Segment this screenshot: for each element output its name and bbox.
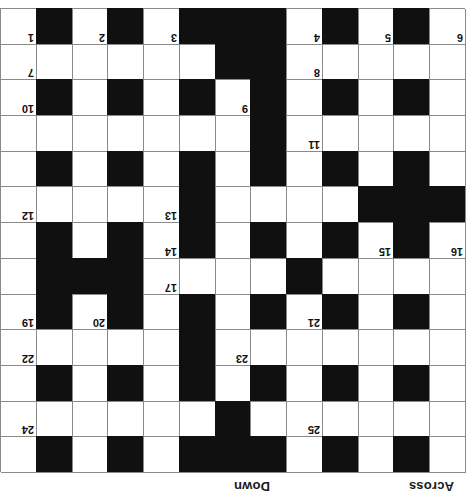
grid-cell[interactable] xyxy=(107,115,143,151)
grid-cell[interactable] xyxy=(429,79,465,115)
grid-cell[interactable] xyxy=(36,186,72,222)
grid-cell[interactable]: 3 xyxy=(143,8,179,44)
grid-cell[interactable]: 14 xyxy=(143,222,179,258)
grid-cell[interactable] xyxy=(250,258,286,294)
grid-cell[interactable] xyxy=(179,401,215,436)
grid-cell[interactable] xyxy=(72,79,107,115)
grid-cell[interactable] xyxy=(143,329,179,365)
grid-cell[interactable] xyxy=(143,365,179,401)
grid-cell[interactable] xyxy=(322,258,358,294)
grid-cell[interactable] xyxy=(429,115,465,151)
grid-cell[interactable] xyxy=(322,401,358,436)
grid-cell[interactable] xyxy=(429,329,465,365)
grid-cell[interactable] xyxy=(143,79,179,115)
grid-cell[interactable] xyxy=(322,329,358,365)
grid-cell[interactable] xyxy=(429,365,465,401)
grid-cell[interactable] xyxy=(179,44,215,79)
grid-cell[interactable]: 22 xyxy=(0,329,36,365)
grid-cell[interactable] xyxy=(286,365,322,401)
grid-cell[interactable] xyxy=(215,294,250,329)
grid-cell[interactable] xyxy=(36,44,72,79)
grid-cell[interactable]: 11 xyxy=(286,115,322,151)
grid-cell[interactable]: 12 xyxy=(0,186,36,222)
grid-cell[interactable]: 8 xyxy=(286,44,322,79)
grid-cell[interactable]: 17 xyxy=(143,258,179,294)
grid-cell[interactable]: 15 xyxy=(358,222,393,258)
grid-cell[interactable]: 13 xyxy=(143,186,179,222)
grid-cell[interactable]: 23 xyxy=(215,329,250,365)
grid-cell[interactable] xyxy=(0,222,36,258)
grid-cell[interactable] xyxy=(215,222,250,258)
grid-cell[interactable] xyxy=(72,222,107,258)
grid-cell[interactable] xyxy=(286,329,322,365)
grid-cell[interactable] xyxy=(0,151,36,186)
grid-cell[interactable] xyxy=(0,436,36,472)
grid-cell[interactable] xyxy=(429,151,465,186)
grid-cell[interactable] xyxy=(179,115,215,151)
grid-cell[interactable] xyxy=(393,258,429,294)
grid-cell[interactable] xyxy=(143,436,179,472)
grid-cell[interactable]: 6 xyxy=(429,8,465,44)
grid-cell[interactable] xyxy=(143,151,179,186)
grid-cell[interactable] xyxy=(143,44,179,79)
grid-cell[interactable] xyxy=(72,115,107,151)
grid-cell[interactable] xyxy=(358,258,393,294)
grid-cell[interactable] xyxy=(358,401,393,436)
grid-cell[interactable] xyxy=(143,115,179,151)
grid-cell[interactable] xyxy=(72,365,107,401)
grid-cell[interactable] xyxy=(393,401,429,436)
grid-cell[interactable] xyxy=(36,329,72,365)
grid-cell[interactable] xyxy=(72,151,107,186)
grid-cell[interactable] xyxy=(322,115,358,151)
grid-cell[interactable] xyxy=(0,115,36,151)
grid-cell[interactable] xyxy=(0,258,36,294)
grid-cell[interactable] xyxy=(429,44,465,79)
grid-cell[interactable] xyxy=(143,401,179,436)
grid-cell[interactable] xyxy=(429,258,465,294)
grid-cell[interactable] xyxy=(358,115,393,151)
grid-cell[interactable] xyxy=(72,186,107,222)
grid-cell[interactable] xyxy=(250,329,286,365)
crossword-grid[interactable]: 252423222120191716151413121191087654321 xyxy=(1,9,466,473)
grid-cell[interactable]: 9 xyxy=(215,79,250,115)
grid-cell[interactable]: 5 xyxy=(358,8,393,44)
grid-cell[interactable]: 7 xyxy=(0,44,36,79)
grid-cell[interactable] xyxy=(358,294,393,329)
grid-cell[interactable] xyxy=(393,329,429,365)
grid-cell[interactable] xyxy=(322,44,358,79)
grid-cell[interactable] xyxy=(429,294,465,329)
grid-cell[interactable] xyxy=(107,329,143,365)
grid-cell[interactable] xyxy=(286,436,322,472)
grid-cell[interactable]: 10 xyxy=(0,79,36,115)
grid-cell[interactable] xyxy=(358,436,393,472)
grid-cell[interactable] xyxy=(215,115,250,151)
grid-cell[interactable] xyxy=(107,401,143,436)
grid-cell[interactable] xyxy=(393,44,429,79)
grid-cell[interactable] xyxy=(286,222,322,258)
grid-cell[interactable] xyxy=(429,436,465,472)
grid-cell[interactable] xyxy=(286,151,322,186)
grid-cell[interactable] xyxy=(215,151,250,186)
grid-cell[interactable] xyxy=(250,186,286,222)
grid-cell[interactable] xyxy=(72,401,107,436)
grid-cell[interactable]: 25 xyxy=(286,401,322,436)
grid-cell[interactable] xyxy=(358,365,393,401)
grid-cell[interactable] xyxy=(358,79,393,115)
grid-cell[interactable] xyxy=(215,258,250,294)
grid-cell[interactable] xyxy=(358,329,393,365)
grid-cell[interactable] xyxy=(393,115,429,151)
grid-cell[interactable] xyxy=(72,329,107,365)
grid-cell[interactable]: 19 xyxy=(0,294,36,329)
grid-cell[interactable] xyxy=(215,186,250,222)
grid-cell[interactable] xyxy=(250,401,286,436)
grid-cell[interactable]: 20 xyxy=(72,294,107,329)
grid-cell[interactable] xyxy=(36,115,72,151)
grid-cell[interactable] xyxy=(215,365,250,401)
grid-cell[interactable] xyxy=(36,401,72,436)
grid-cell[interactable] xyxy=(107,186,143,222)
grid-cell[interactable]: 4 xyxy=(286,8,322,44)
grid-cell[interactable]: 21 xyxy=(286,294,322,329)
grid-cell[interactable] xyxy=(358,44,393,79)
grid-cell[interactable] xyxy=(429,401,465,436)
grid-cell[interactable]: 16 xyxy=(429,222,465,258)
